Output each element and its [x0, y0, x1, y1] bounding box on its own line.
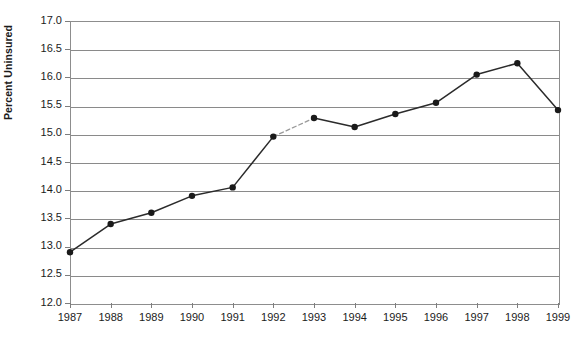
x-tick-label: 1993 — [292, 311, 336, 323]
gridline — [71, 78, 559, 79]
y-tick-label: 16.0 — [22, 70, 62, 82]
gridline — [71, 107, 559, 108]
x-tick-label: 1996 — [414, 311, 458, 323]
x-tick-mark — [111, 303, 112, 308]
y-tick-label: 14.5 — [22, 155, 62, 167]
x-tick-mark — [70, 303, 71, 308]
x-tick-mark — [558, 303, 559, 308]
y-tick-label: 12.0 — [22, 296, 62, 308]
x-tick-mark — [273, 303, 274, 308]
y-tick-label: 13.5 — [22, 211, 62, 223]
x-tick-label: 1998 — [495, 311, 539, 323]
x-tick-label: 1988 — [89, 311, 133, 323]
y-tick-label: 16.5 — [22, 42, 62, 54]
x-tick-label: 1990 — [170, 311, 214, 323]
y-tick-label: 15.5 — [22, 98, 62, 110]
gridline — [71, 163, 559, 164]
x-tick-mark — [436, 303, 437, 308]
x-tick-label: 1999 — [536, 311, 580, 323]
x-tick-label: 1989 — [129, 311, 173, 323]
x-tick-mark — [477, 303, 478, 308]
y-tick-label: 12.5 — [22, 267, 62, 279]
x-tick-label: 1997 — [455, 311, 499, 323]
y-tick-label: 17.0 — [22, 14, 62, 26]
gridline — [71, 248, 559, 249]
line-chart-figure: Percent Uninsured 17.016.516.015.515.014… — [0, 0, 582, 349]
y-tick-label: 15.0 — [22, 126, 62, 138]
x-tick-mark — [395, 303, 396, 308]
y-tick-label: 14.0 — [22, 183, 62, 195]
x-tick-label: 1992 — [251, 311, 295, 323]
x-tick-label: 1994 — [333, 311, 377, 323]
gridline — [71, 219, 559, 220]
gridline — [71, 135, 559, 136]
gridline — [71, 191, 559, 192]
plot-area — [70, 21, 560, 305]
x-tick-mark — [151, 303, 152, 308]
x-tick-label: 1995 — [373, 311, 417, 323]
x-tick-mark — [314, 303, 315, 308]
y-tick-label: 13.0 — [22, 239, 62, 251]
x-tick-mark — [517, 303, 518, 308]
x-tick-mark — [192, 303, 193, 308]
x-tick-mark — [233, 303, 234, 308]
gridline — [71, 276, 559, 277]
x-tick-label: 1991 — [211, 311, 255, 323]
x-tick-label: 1987 — [48, 311, 92, 323]
gridline — [71, 50, 559, 51]
x-tick-mark — [355, 303, 356, 308]
